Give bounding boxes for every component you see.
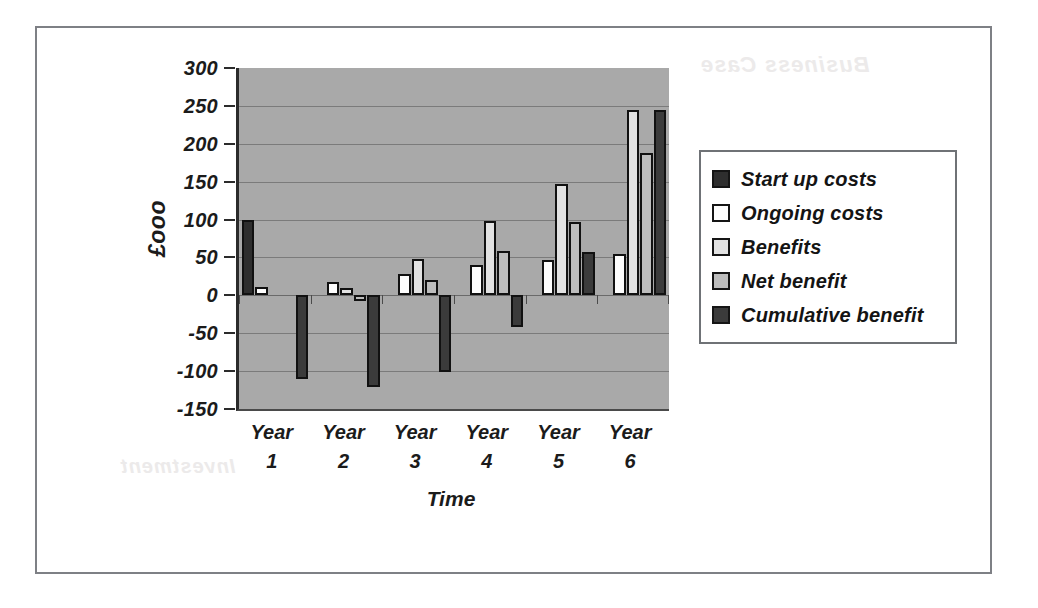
x-axis-category-line1: Year xyxy=(322,421,365,443)
plot-area xyxy=(236,68,669,411)
bar xyxy=(569,222,582,296)
x-axis-tick-mark xyxy=(597,295,598,304)
x-axis-category-label: Year1 xyxy=(251,418,294,476)
legend-item: Benefits xyxy=(712,230,943,264)
x-axis-category-label: Year4 xyxy=(466,418,509,476)
bar xyxy=(627,110,640,296)
bar xyxy=(640,153,653,295)
x-axis-title: Time xyxy=(236,487,666,511)
y-axis-tick-label: 50 xyxy=(150,246,218,269)
y-axis-tick-mark xyxy=(224,370,235,372)
bar xyxy=(296,295,309,379)
bar-group xyxy=(382,68,454,409)
bar xyxy=(555,184,568,295)
bar xyxy=(354,295,367,301)
x-axis-category-label: Year6 xyxy=(609,418,652,476)
y-axis-tick-mark xyxy=(224,332,235,334)
y-axis-tick-mark xyxy=(224,143,235,145)
x-axis-category-line2: 3 xyxy=(394,447,437,476)
bar-group xyxy=(454,68,526,409)
legend-swatch-icon xyxy=(712,238,730,256)
y-axis-tick-mark xyxy=(224,67,235,69)
x-axis-category-line2: 6 xyxy=(609,447,652,476)
legend-item-label: Benefits xyxy=(741,236,822,259)
y-axis-tick-label: -50 xyxy=(150,322,218,345)
x-axis-category-line1: Year xyxy=(251,421,294,443)
x-axis-tick-mark xyxy=(382,295,383,304)
bar-group xyxy=(239,68,311,409)
bar xyxy=(470,265,483,295)
x-axis-category-line1: Year xyxy=(609,421,652,443)
x-axis-tick-mark xyxy=(311,295,312,304)
bar xyxy=(425,280,438,295)
bar xyxy=(484,221,497,295)
bar xyxy=(242,220,255,296)
bar-group xyxy=(597,68,669,409)
y-axis-tick-mark xyxy=(224,256,235,258)
legend-item: Net benefit xyxy=(712,264,943,298)
bar-group xyxy=(311,68,383,409)
y-axis-tick-mark xyxy=(224,294,235,296)
x-axis-tick-mark xyxy=(239,295,240,304)
bar xyxy=(340,288,353,296)
plot-inner xyxy=(239,68,669,409)
y-axis-tick-label: 0 xyxy=(150,284,218,307)
legend-item: Start up costs xyxy=(712,162,943,196)
x-axis-category-line2: 1 xyxy=(251,447,294,476)
y-axis-tick-label: 100 xyxy=(150,208,218,231)
legend-item-label: Start up costs xyxy=(741,168,877,191)
bar xyxy=(327,282,340,296)
bar xyxy=(412,259,425,295)
y-axis-tick-label: 150 xyxy=(150,170,218,193)
x-axis-category-line2: 5 xyxy=(537,447,580,476)
y-axis-tick-label-group: 300250200150100500-50-100-150 xyxy=(150,60,218,409)
x-axis-category-line2: 4 xyxy=(466,447,509,476)
legend-swatch-icon xyxy=(712,272,730,290)
legend-item: Cumulative benefit xyxy=(712,298,943,332)
legend-item-label: Net benefit xyxy=(741,270,847,293)
legend-item: Ongoing costs xyxy=(712,196,943,230)
bar xyxy=(398,274,411,295)
x-axis-tick-mark xyxy=(668,295,669,304)
legend-swatch-icon xyxy=(712,306,730,324)
bar xyxy=(255,287,268,295)
x-axis-category-line1: Year xyxy=(537,421,580,443)
bar xyxy=(511,295,524,327)
x-axis-tick-mark xyxy=(526,295,527,304)
bar xyxy=(582,252,595,295)
bar xyxy=(497,251,510,295)
bar xyxy=(654,110,667,296)
x-axis-tick-label-group: Year1Year2Year3Year4Year5Year6 xyxy=(236,418,666,488)
y-axis-tick-mark xyxy=(224,408,235,410)
legend-item-label: Cumulative benefit xyxy=(741,304,924,327)
cost-benefit-bar-chart: £ooo 300250200150100500-50-100-150 Year1… xyxy=(0,0,1038,608)
y-axis-tick-mark xyxy=(224,219,235,221)
y-axis-tick-label: -100 xyxy=(150,360,218,383)
bar xyxy=(613,254,626,296)
bar xyxy=(439,295,452,372)
legend-swatch-icon xyxy=(712,170,730,188)
bar xyxy=(367,295,380,387)
legend-swatch-icon xyxy=(712,204,730,222)
bar-group xyxy=(526,68,598,409)
y-axis-tick-mark xyxy=(224,181,235,183)
y-axis-tick-mark xyxy=(224,105,235,107)
x-axis-category-line2: 2 xyxy=(322,447,365,476)
y-axis-tick-label: 200 xyxy=(150,132,218,155)
x-axis-tick-mark xyxy=(454,295,455,304)
legend-item-label: Ongoing costs xyxy=(741,202,884,225)
x-axis-category-line1: Year xyxy=(394,421,437,443)
y-axis-tick-label: 250 xyxy=(150,94,218,117)
x-axis-category-label: Year2 xyxy=(322,418,365,476)
x-axis-category-label: Year5 xyxy=(537,418,580,476)
y-axis-tick-label: -150 xyxy=(150,398,218,421)
bar xyxy=(542,260,555,296)
y-axis-tick-label: 300 xyxy=(150,57,218,80)
x-axis-category-label: Year3 xyxy=(394,418,437,476)
x-axis-category-line1: Year xyxy=(466,421,509,443)
chart-legend: Start up costsOngoing costsBenefitsNet b… xyxy=(699,150,957,344)
